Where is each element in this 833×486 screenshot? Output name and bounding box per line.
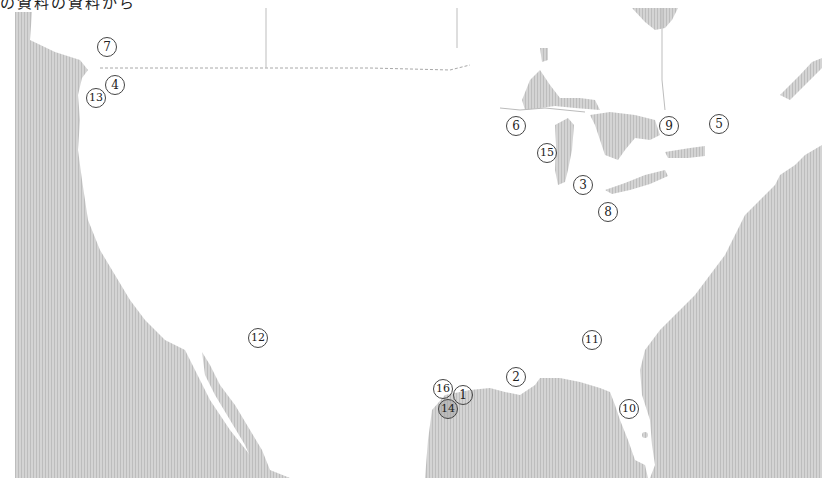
- hudson-bay: [632, 8, 678, 30]
- isle-royale: [540, 48, 548, 62]
- lake-okeechobee: [642, 432, 648, 438]
- location-marker-14: 14: [438, 399, 458, 419]
- atlantic-ocean: [640, 145, 822, 478]
- location-marker-9: 9: [659, 116, 679, 136]
- location-marker-2: 2: [506, 367, 526, 387]
- lake-michigan: [555, 118, 574, 185]
- location-marker-12: 12: [248, 328, 268, 348]
- mi-upper-peninsula: [500, 108, 585, 112]
- us-map: [0, 0, 833, 486]
- lake-huron: [590, 112, 660, 160]
- location-marker-4: 4: [105, 75, 125, 95]
- location-marker-5: 5: [709, 114, 729, 134]
- location-marker-7: 7: [97, 37, 117, 57]
- location-marker-15: 15: [537, 143, 557, 163]
- canada-us-border: [100, 65, 470, 70]
- location-marker-13: 13: [86, 88, 106, 108]
- lake-superior: [522, 70, 600, 110]
- location-marker-8: 8: [598, 202, 618, 222]
- location-marker-6: 6: [506, 116, 526, 136]
- lake-ontario: [665, 146, 705, 158]
- location-marker-3: 3: [573, 175, 593, 195]
- lake-erie: [605, 170, 668, 194]
- location-marker-11: 11: [582, 330, 602, 350]
- st-lawrence: [780, 58, 822, 100]
- pacific-ocean: [15, 12, 290, 478]
- location-marker-10: 10: [619, 399, 639, 419]
- location-marker-16: 16: [433, 379, 453, 399]
